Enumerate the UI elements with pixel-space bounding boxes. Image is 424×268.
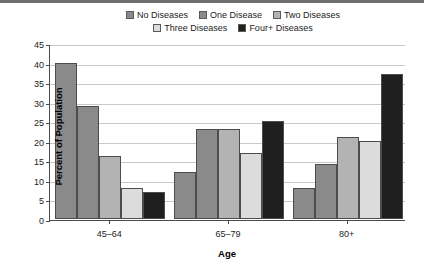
bar xyxy=(99,156,121,219)
legend-label-no-diseases: No Diseases xyxy=(137,10,188,20)
y-axis-tick-label: 15 xyxy=(34,158,44,167)
legend-swatch-icon-two-diseases xyxy=(273,11,281,19)
bar xyxy=(174,172,196,219)
x-axis-tick-label: 65–79 xyxy=(215,229,240,239)
bars-layer xyxy=(51,45,405,219)
y-axis-tick xyxy=(46,182,50,183)
legend-row-1: No Diseases One Disease Two Diseases xyxy=(108,8,358,21)
y-axis-tick-label: 45 xyxy=(34,41,44,50)
x-axis-tick-label: 45–64 xyxy=(97,229,122,239)
y-axis-tick-label: 25 xyxy=(34,119,44,128)
y-axis-tick xyxy=(46,143,50,144)
y-axis-tick-label: 35 xyxy=(34,80,44,89)
y-axis-tick xyxy=(46,201,50,202)
chart-screenshot: No Diseases One Disease Two Diseases Thr… xyxy=(0,0,424,268)
bar xyxy=(337,137,359,219)
bar xyxy=(315,164,337,219)
y-axis-tick-label: 30 xyxy=(34,99,44,108)
bar-group xyxy=(293,45,403,219)
bar xyxy=(381,74,403,219)
legend-label-one-disease: One Disease xyxy=(210,10,262,20)
legend-row-2: Three Diseases Four+ Diseases xyxy=(108,21,358,34)
x-axis-tick xyxy=(109,220,110,224)
x-axis-title: Age xyxy=(49,248,405,259)
bar xyxy=(240,153,262,219)
legend-item-no-diseases: No Diseases xyxy=(126,10,188,20)
x-axis-tick-label: 80+ xyxy=(339,229,354,239)
bar-group xyxy=(174,45,284,219)
bar xyxy=(262,121,284,219)
legend-item-four-plus-diseases: Four+ Diseases xyxy=(238,23,312,33)
legend-swatch-icon-one-disease xyxy=(199,11,207,19)
x-axis-tick xyxy=(347,220,348,224)
top-border-strip xyxy=(0,0,424,3)
bar xyxy=(77,106,99,219)
y-axis-tick xyxy=(46,221,50,222)
y-axis-tick-label: 5 xyxy=(39,197,44,206)
y-axis-tick xyxy=(46,84,50,85)
legend-swatch-icon-four-plus-diseases xyxy=(238,24,246,32)
y-axis-tick-label: 20 xyxy=(34,138,44,147)
y-axis-tick xyxy=(46,104,50,105)
bar xyxy=(196,129,218,219)
legend-swatch-icon-no-diseases xyxy=(126,11,134,19)
legend-swatch-icon-three-diseases xyxy=(153,24,161,32)
y-axis-tick-label: 40 xyxy=(34,60,44,69)
bar xyxy=(143,192,165,219)
y-axis-tick-label: 0 xyxy=(39,217,44,226)
y-axis-tick xyxy=(46,45,50,46)
legend-label-two-diseases: Two Diseases xyxy=(284,10,340,20)
plot-area: 051015202530354045 45–6465–7980+ Percent… xyxy=(49,45,405,221)
y-axis-tick-label: 10 xyxy=(34,177,44,186)
bar xyxy=(293,188,315,219)
y-axis-title: Percent of Population xyxy=(53,77,64,197)
legend-label-three-diseases: Three Diseases xyxy=(164,23,227,33)
bar xyxy=(121,188,143,219)
bar-group xyxy=(55,45,165,219)
legend-item-one-disease: One Disease xyxy=(199,10,262,20)
legend-label-four-plus-diseases: Four+ Diseases xyxy=(249,23,312,33)
x-axis-tick xyxy=(228,220,229,224)
bar xyxy=(359,141,381,219)
y-axis-tick xyxy=(46,162,50,163)
legend-item-two-diseases: Two Diseases xyxy=(273,10,340,20)
y-axis-tick xyxy=(46,65,50,66)
bar xyxy=(218,129,240,219)
legend-item-three-diseases: Three Diseases xyxy=(153,23,227,33)
y-axis-tick xyxy=(46,123,50,124)
chart-legend: No Diseases One Disease Two Diseases Thr… xyxy=(108,8,358,34)
